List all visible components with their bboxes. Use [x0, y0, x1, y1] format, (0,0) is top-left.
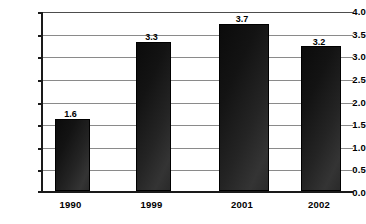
- y-tick-1_5: [38, 125, 43, 127]
- bar-chart: 4.0 3.5 3.0 2.5 2.0 1.5 1.0 0.5 0.0 1.6 …: [0, 0, 366, 224]
- y-tick-0: [38, 191, 43, 193]
- x-axis-label-2002: 2002: [308, 200, 330, 210]
- bar-2002[interactable]: [301, 46, 341, 191]
- y-tick-2_5: [38, 80, 43, 82]
- bar-2001[interactable]: [219, 24, 269, 191]
- y-tick-3: [38, 57, 43, 59]
- gridline-4: [43, 12, 353, 13]
- value-label-1999: 3.3: [145, 33, 158, 42]
- value-label-2001: 3.7: [236, 15, 249, 24]
- gridline-3_5: [43, 35, 353, 36]
- bar-1990[interactable]: [55, 119, 90, 191]
- value-label-1990: 1.6: [64, 110, 77, 119]
- plot-area: [41, 12, 353, 193]
- y-tick-0_5: [38, 170, 43, 172]
- value-label-2002: 3.2: [313, 38, 326, 47]
- y-tick-3_5: [38, 35, 43, 37]
- y-tick-4: [38, 12, 43, 14]
- y-tick-1: [38, 148, 43, 150]
- bar-1999[interactable]: [136, 42, 171, 191]
- x-axis-label-2001: 2001: [231, 200, 253, 210]
- y-tick-2: [38, 103, 43, 105]
- x-axis-label-1999: 1999: [141, 200, 163, 210]
- x-axis-label-1990: 1990: [60, 200, 82, 210]
